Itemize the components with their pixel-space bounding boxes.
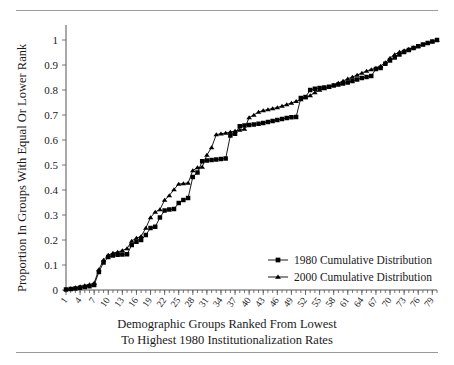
x-tick-label: 55 [310,295,324,309]
x-tick-label: 73 [394,295,408,309]
data-point-marker [157,207,163,211]
x-tick-label: 43 [253,295,267,309]
y-tick-label: 0.6 [44,134,58,146]
data-point-marker [185,181,191,185]
x-tick-label: 34 [211,295,225,309]
data-point-marker [167,193,173,197]
y-tick-label: 0.8 [44,84,58,96]
x-tick-label: 52 [296,295,310,309]
data-point-marker [125,252,129,256]
data-point-marker [223,156,227,160]
y-tick-label: 0.1 [44,259,58,271]
x-tick-label: 64 [352,295,366,309]
plot-area: Proportion In Groups With Equal Or Lower… [0,14,454,314]
x-tick-label: 13 [112,295,126,309]
data-point-marker [124,246,130,250]
data-point-marker [228,133,232,137]
data-point-marker [247,123,251,127]
data-point-marker [280,117,284,121]
data-point-marker [209,145,215,149]
x-tick-label: 28 [183,295,197,309]
data-point-marker [162,208,166,212]
data-point-marker [340,79,346,83]
x-axis-title-block: Demographic Groups Ranked From Lowest To… [0,316,454,348]
data-point-marker [138,234,144,238]
data-point-marker [148,226,152,230]
data-point-marker [176,201,180,205]
data-point-marker [144,233,148,237]
bottom-rule-divider [16,352,438,353]
data-point-marker [346,80,350,84]
data-point-marker [219,157,223,161]
data-point-marker [252,122,256,126]
data-point-marker [261,121,265,125]
data-point-marker [256,122,260,126]
x-tick-label: 19 [141,295,155,309]
data-point-marker [266,120,270,124]
data-point-marker [120,252,124,256]
data-point-marker [392,52,398,56]
data-point-marker [167,207,171,211]
y-tick-label: 0.7 [44,109,58,121]
y-tick-label: 0.5 [44,159,58,171]
x-tick-label: 70 [380,295,394,309]
x-tick-label: 58 [324,295,338,309]
data-point-marker [246,115,252,119]
x-tick-label: 4 [73,295,84,305]
series-2000-cumulative-distribution [63,38,440,291]
data-point-marker [143,226,149,230]
y-tick-label: 0 [53,284,59,296]
top-rule-divider [16,10,438,11]
data-point-marker [209,158,213,162]
data-point-marker [153,225,157,229]
y-tick-label: 0.9 [44,59,58,71]
data-point-marker [369,74,373,78]
legend-label: 2000 Cumulative Distribution [294,271,432,283]
x-tick-label: 22 [155,295,169,309]
y-tick-label: 0.2 [44,234,58,246]
y-axis-label: Proportion In Groups With Equal Or Lower… [15,43,29,292]
data-point-marker [214,157,218,161]
x-tick-label: 7 [87,295,98,305]
data-point-marker [289,115,293,119]
data-point-marker [360,76,364,80]
data-point-marker [158,215,162,219]
x-tick-label: 1 [59,295,70,305]
y-axis-ticks [62,40,66,290]
data-point-marker [172,207,176,211]
x-tick-label: 25 [169,295,183,309]
x-tick-label: 49 [281,295,295,309]
y-tick-label: 0.3 [44,209,58,221]
x-tick-label: 16 [126,295,140,309]
data-point-marker [204,153,210,157]
x-tick-label: 31 [197,295,211,309]
x-tick-label: 76 [408,295,422,309]
legend-label: 1980 Cumulative Distribution [294,254,432,266]
data-point-marker [355,77,359,81]
data-point-marker [270,119,274,123]
data-point-marker [181,198,185,202]
x-tick-label: 10 [98,295,112,309]
x-tick-label: 46 [267,295,281,309]
figure-container: Proportion In Groups With Equal Or Lower… [0,0,454,365]
data-point-marker [139,238,143,242]
data-point-marker [294,115,298,119]
data-point-marker [284,116,288,120]
data-point-marker [186,196,190,200]
cumulative-distribution-chart: Proportion In Groups With Equal Or Lower… [0,14,454,314]
x-axis-tick-labels: 1471013161922252831343740434649525558616… [59,295,436,309]
x-tick-label: 61 [338,295,352,309]
data-point-marker [275,118,279,122]
chart-legend: 1980 Cumulative Distribution2000 Cumulat… [268,254,432,283]
x-tick-label: 79 [422,295,436,309]
x-axis-title-line1: Demographic Groups Ranked From Lowest [0,316,454,332]
data-point-marker [152,210,158,214]
data-point-marker [364,75,368,79]
legend-square-icon [276,258,281,263]
x-tick-label: 40 [239,295,253,309]
x-tick-label: 67 [366,295,380,309]
data-point-marker [308,88,312,92]
data-point-marker [350,79,354,83]
y-tick-label: 0.4 [44,184,58,196]
x-tick-label: 37 [225,295,239,309]
